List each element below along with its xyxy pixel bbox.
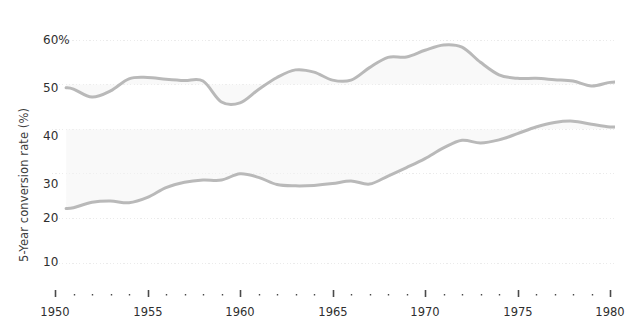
x-tick-label-1970: 1970 [401, 305, 449, 319]
area-fill-upper-series [66, 45, 615, 105]
y-tick-label-50: 50 [43, 81, 58, 95]
x-tick-label-1955: 1955 [124, 305, 172, 319]
x-tick-label-1965: 1965 [309, 305, 357, 319]
y-tick-label-10: 10 [43, 255, 58, 269]
x-tick-label-1975: 1975 [494, 305, 542, 319]
x-tick-label-1950: 1950 [31, 305, 79, 319]
y-tick-label-30: 30 [43, 177, 58, 191]
y-tick-label-60: 60% [43, 33, 70, 47]
series-line-upper-series [66, 45, 615, 105]
x-tick-label-1980: 1980 [586, 305, 629, 319]
x-tick-label-1960: 1960 [216, 305, 264, 319]
y-tick-label-20: 20 [43, 211, 58, 225]
x-axis-ticks-group [56, 290, 611, 297]
y-tick-label-40: 40 [43, 129, 58, 143]
